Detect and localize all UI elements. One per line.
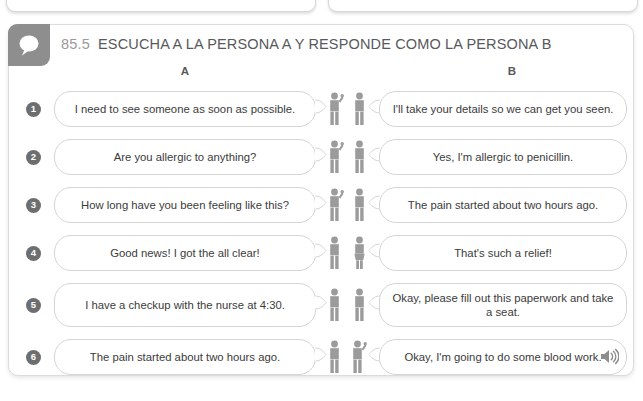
- speech-bubble-a[interactable]: Good news! I got the all clear!: [54, 235, 316, 271]
- exercise-header: 85.5 ESCUCHA A LA PERSONA A Y RESPONDE C…: [9, 25, 633, 57]
- person-a-icon: [327, 92, 344, 126]
- bubble-tail-a: [315, 147, 326, 161]
- speech-bubble-a[interactable]: I have a checkup with the nurse at 4:30.: [54, 283, 316, 327]
- speech-bubble-b[interactable]: That's such a relief!: [379, 235, 627, 271]
- bubble-tail-a: [315, 195, 326, 209]
- speech-bubble-b[interactable]: Okay, I'm going to do some blood work.: [379, 339, 627, 375]
- speech-bubble-a[interactable]: I need to see someone as soon as possibl…: [54, 91, 316, 127]
- figure-pair: [327, 137, 367, 177]
- bubble-tail-b: [368, 347, 379, 361]
- figure-pair: [327, 89, 367, 129]
- dialogue-row: 1I need to see someone as soon as possib…: [9, 89, 633, 129]
- person-a-icon: [327, 236, 342, 270]
- speech-bubble-b[interactable]: The pain started about two hours ago.: [379, 187, 627, 223]
- exercise-card: 85.5 ESCUCHA A LA PERSONA A Y RESPONDE C…: [8, 24, 634, 376]
- speech-bubble-a[interactable]: Are you allergic to anything?: [54, 139, 316, 175]
- exercise-number: 85.5: [61, 36, 90, 52]
- row-number: 2: [26, 150, 41, 165]
- partial-card-right: [328, 0, 638, 12]
- exercise-title: ESCUCHA A LA PERSONA A Y RESPONDE COMO L…: [98, 36, 552, 52]
- dialogue-rows: 1I need to see someone as soon as possib…: [9, 89, 633, 377]
- person-b-icon: [352, 140, 367, 174]
- person-b-icon: [352, 236, 367, 270]
- row-number: 3: [26, 198, 41, 213]
- dialogue-row: 3How long have you been feeling like thi…: [9, 185, 633, 225]
- dialogue-row: 6The pain started about two hours ago.Ok…: [9, 337, 633, 377]
- dialogue-row: 4Good news! I got the all clear!That's s…: [9, 233, 633, 273]
- speech-bubble-a[interactable]: How long have you been feeling like this…: [54, 187, 316, 223]
- row-number: 4: [26, 246, 41, 261]
- row-number: 6: [26, 350, 41, 365]
- column-label-a: A: [181, 65, 189, 77]
- person-a-icon: [327, 140, 344, 174]
- bubble-tail-a: [315, 243, 326, 257]
- person-b-icon: [350, 340, 367, 374]
- speech-bubble-b[interactable]: Okay, please fill out this paperwork and…: [379, 283, 627, 327]
- person-b-icon: [352, 188, 367, 222]
- column-labels: A B: [9, 65, 633, 87]
- speech-bubble-b[interactable]: Yes, I'm allergic to penicillin.: [379, 139, 627, 175]
- person-b-icon: [352, 288, 367, 322]
- figure-pair: [327, 337, 367, 377]
- speech-bubble-icon: [8, 24, 50, 66]
- speech-bubble-b[interactable]: I'll take your details so we can get you…: [379, 91, 627, 127]
- bubble-tail-b: [368, 195, 379, 209]
- bubble-tail-b: [368, 99, 379, 113]
- bubble-tail-b: [368, 147, 379, 161]
- person-a-icon: [327, 340, 342, 374]
- bubble-tail-a: [315, 347, 326, 361]
- person-a-icon: [327, 188, 344, 222]
- bubble-tail-a: [315, 99, 326, 113]
- person-b-icon: [352, 92, 367, 126]
- column-label-b: B: [508, 65, 516, 77]
- figure-pair: [327, 233, 367, 273]
- row-number: 5: [26, 298, 41, 313]
- speaker-icon[interactable]: [599, 348, 619, 365]
- figure-pair: [327, 185, 367, 225]
- dialogue-row: 2Are you allergic to anything?Yes, I'm a…: [9, 137, 633, 177]
- bubble-tail-b: [368, 295, 379, 309]
- row-number: 1: [26, 102, 41, 117]
- figure-pair: [327, 281, 367, 329]
- bubble-tail-b: [368, 243, 379, 257]
- person-a-icon: [327, 288, 342, 322]
- partial-cards-strip: [0, 0, 643, 12]
- speech-bubble-a[interactable]: The pain started about two hours ago.: [54, 339, 316, 375]
- bubble-tail-a: [315, 295, 326, 309]
- dialogue-row: 5I have a checkup with the nurse at 4:30…: [9, 281, 633, 329]
- partial-card-left: [6, 0, 316, 12]
